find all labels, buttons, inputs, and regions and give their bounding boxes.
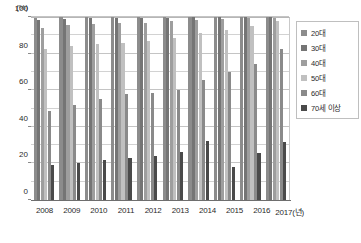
y-axis-tick-label: 40	[19, 114, 28, 123]
legend-swatch-icon	[301, 60, 307, 66]
bar-group	[83, 18, 109, 200]
legend-item-label: 40대	[311, 57, 326, 68]
bar	[51, 165, 54, 200]
legend-item-label: 70세 이상	[311, 102, 341, 113]
x-axis-tick-label: 2012	[140, 203, 167, 221]
bar	[154, 156, 157, 200]
bar	[257, 153, 260, 200]
x-axis-tick-label: 2009	[58, 203, 85, 221]
plot-area	[31, 17, 290, 200]
legend-item[interactable]: 50대	[301, 70, 356, 85]
x-axis-line	[31, 200, 291, 201]
bar-group	[57, 18, 83, 200]
x-axis-tick-label: 2013	[167, 203, 194, 221]
y-axis-tick-label: 0	[24, 187, 28, 196]
chart-legend: 20대30대40대50대60대70세 이상	[296, 21, 359, 119]
legend-item-label: 50대	[311, 72, 326, 83]
bar-group	[212, 18, 238, 200]
bar	[206, 141, 209, 200]
legend-item-label: 20대	[311, 27, 326, 38]
y-axis-tick-label: 60	[19, 77, 28, 86]
x-axis-tick-label: 2016	[248, 203, 275, 221]
y-axis-tick-label: 80	[19, 41, 28, 50]
legend-item[interactable]: 30대	[301, 40, 356, 55]
bar-group	[237, 18, 263, 200]
bar	[232, 167, 235, 200]
bar-groups	[31, 18, 289, 200]
bar	[128, 158, 131, 200]
legend-swatch-icon	[301, 105, 307, 111]
bar-group	[186, 18, 212, 200]
bar	[283, 142, 286, 200]
legend-item[interactable]: 70세 이상	[301, 100, 356, 115]
x-axis-tick-label: 2017(년)	[275, 203, 304, 221]
x-axis-tick-label: 2011	[112, 203, 139, 221]
bar	[180, 152, 183, 200]
legend-swatch-icon	[301, 30, 307, 36]
y-axis-tick-label: 100	[15, 4, 28, 13]
gridline	[31, 16, 289, 17]
y-axis-tick-label: 20	[19, 150, 28, 159]
legend-swatch-icon	[301, 45, 307, 51]
x-axis-tick-label: 2014	[194, 203, 221, 221]
x-axis-tick-label: 2010	[85, 203, 112, 221]
legend-item[interactable]: 40대	[301, 55, 356, 70]
legend-swatch-icon	[301, 90, 307, 96]
legend-item[interactable]: 20대	[301, 25, 356, 40]
legend-swatch-icon	[301, 75, 307, 81]
bar-group	[31, 18, 57, 200]
bar-group	[108, 18, 134, 200]
legend-item[interactable]: 60대	[301, 85, 356, 100]
y-axis-tick-labels: 020406080100	[0, 17, 31, 200]
bar	[77, 163, 80, 200]
bar-group	[134, 18, 160, 200]
x-axis-tick-label: 2015	[221, 203, 248, 221]
x-axis-tick-labels: 2008200920102011201220132014201520162017…	[31, 203, 290, 221]
bar	[103, 160, 106, 200]
legend-item-label: 60대	[311, 87, 326, 98]
legend-item-label: 30대	[311, 42, 326, 53]
bar-group	[263, 18, 289, 200]
bar-group	[160, 18, 186, 200]
bar-chart: (%) 020406080100 20082009201020112012201…	[0, 0, 361, 243]
x-axis-tick-label: 2008	[31, 203, 58, 221]
